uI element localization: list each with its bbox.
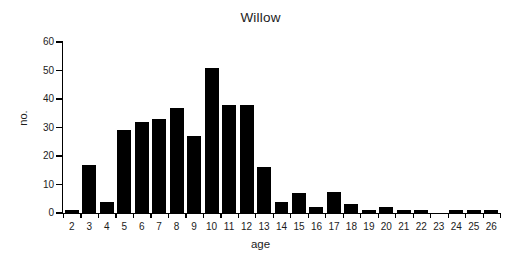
x-tick-mark — [500, 213, 501, 218]
x-tick-mark — [343, 213, 344, 218]
x-tick-mark — [290, 213, 291, 218]
x-tick-label: 26 — [481, 221, 501, 232]
x-tick-mark — [133, 213, 134, 218]
y-tick-mark — [56, 41, 62, 42]
bar — [327, 192, 341, 213]
bar — [117, 130, 131, 213]
y-tick-label: 10 — [14, 180, 54, 190]
x-tick-mark — [448, 213, 449, 218]
x-tick-mark — [360, 213, 361, 218]
bar — [187, 136, 201, 213]
y-tick-label-wrap: 20 — [10, 151, 54, 161]
y-tick-mark — [56, 184, 62, 185]
bar — [275, 202, 289, 213]
bar — [205, 68, 219, 213]
y-tick-label: 20 — [14, 151, 54, 161]
x-tick-mark — [430, 213, 431, 218]
y-tick-label-wrap: 30 — [10, 123, 54, 133]
x-tick-mark — [203, 213, 204, 218]
x-tick-mark — [63, 213, 64, 218]
chart-figure: Willow no. age 0102030405060 23456789101… — [0, 0, 521, 267]
bar — [135, 122, 149, 213]
x-tick-mark — [255, 213, 256, 218]
y-tick-label-wrap: 60 — [10, 37, 54, 47]
x-tick-mark — [185, 213, 186, 218]
x-tick-mark — [325, 213, 326, 218]
bar — [362, 210, 376, 213]
x-tick-mark — [80, 213, 81, 218]
x-tick-mark — [98, 213, 99, 218]
bar — [240, 105, 254, 213]
bar — [170, 108, 184, 213]
bar — [379, 207, 393, 213]
x-tick-mark — [413, 213, 414, 218]
y-tick-label-wrap: 40 — [10, 94, 54, 104]
x-tick-mark — [150, 213, 151, 218]
y-tick-label-wrap: 10 — [10, 180, 54, 190]
bar — [397, 210, 411, 213]
bar — [65, 210, 79, 213]
bar — [152, 119, 166, 213]
bar — [82, 165, 96, 213]
bar — [257, 167, 271, 213]
x-tick-mark — [308, 213, 309, 218]
x-tick-mark — [115, 213, 116, 218]
plot-area — [63, 42, 500, 213]
y-tick-mark — [56, 155, 62, 156]
y-tick-mark — [56, 212, 62, 213]
y-tick-label: 0 — [14, 208, 54, 218]
x-tick-mark — [220, 213, 221, 218]
x-tick-mark — [378, 213, 379, 218]
bar — [292, 193, 306, 213]
bar — [344, 204, 358, 213]
chart-title: Willow — [0, 10, 521, 25]
bar — [100, 202, 114, 213]
bar — [414, 210, 428, 213]
y-tick-mark — [56, 127, 62, 128]
y-tick-label: 60 — [14, 37, 54, 47]
bar — [484, 210, 498, 213]
y-tick-label: 50 — [14, 66, 54, 76]
y-tick-label-wrap: 50 — [10, 66, 54, 76]
x-tick-mark — [465, 213, 466, 218]
bar — [467, 210, 481, 213]
y-tick-label: 30 — [14, 123, 54, 133]
x-tick-mark — [273, 213, 274, 218]
bar — [309, 207, 323, 213]
x-tick-mark — [483, 213, 484, 218]
x-tick-mark — [395, 213, 396, 218]
y-tick-label: 40 — [14, 94, 54, 104]
x-axis-label: age — [0, 238, 521, 250]
bar — [222, 105, 236, 213]
y-tick-mark — [56, 70, 62, 71]
y-tick-mark — [56, 98, 62, 99]
x-tick-mark — [238, 213, 239, 218]
y-tick-label-wrap: 0 — [10, 208, 54, 218]
x-tick-mark — [168, 213, 169, 218]
bar — [449, 210, 463, 213]
